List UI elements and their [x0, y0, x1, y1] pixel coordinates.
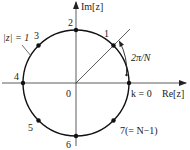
angle-label: 2π/N — [131, 52, 152, 63]
circle-label: |z| = 1 — [3, 32, 29, 43]
label-k5: 5 — [28, 122, 33, 133]
label-k0: k = 0 — [131, 88, 152, 99]
point-k0 — [127, 81, 131, 85]
point-k1 — [111, 43, 115, 47]
label-k3: 3 — [34, 30, 39, 41]
label-k4: 4 — [14, 71, 19, 82]
point-k6 — [74, 134, 78, 138]
label-k7: 7(= N−1) — [120, 125, 158, 137]
point-k3 — [36, 43, 40, 47]
point-k7 — [111, 118, 115, 122]
point-k4 — [21, 81, 25, 85]
label-k6: 6 — [66, 139, 71, 150]
real-axis-label: Re[z] — [162, 88, 184, 99]
unit-circle-diagram: Im[z] Re[z] 0 |z| = 1 2π/N k = 0 1 2 3 4… — [0, 0, 190, 150]
label-k2: 2 — [68, 17, 73, 28]
origin-label: 0 — [66, 88, 71, 99]
point-k2 — [74, 28, 78, 32]
point-k5 — [36, 118, 40, 122]
circle-label-leader — [22, 45, 31, 56]
angle-arc-start — [125, 74, 127, 76]
imag-axis-label: Im[z] — [81, 1, 103, 12]
label-k1: 1 — [104, 28, 109, 39]
